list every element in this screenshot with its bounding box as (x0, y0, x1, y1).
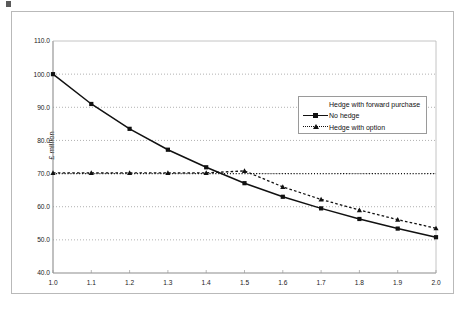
chart-legend: Hedge with forward purchase No hedge Hed… (298, 96, 427, 134)
svg-text:1.1: 1.1 (87, 279, 96, 286)
svg-text:1.0: 1.0 (48, 279, 57, 286)
series-2 (50, 168, 438, 230)
legend-label-option: Hedge with option (329, 122, 385, 133)
legend-key-none-icon (302, 99, 329, 110)
svg-text:1.9: 1.9 (393, 279, 402, 286)
legend-entry-no-hedge: No hedge (302, 110, 423, 121)
svg-text:1.7: 1.7 (317, 279, 326, 286)
legend-label-no-hedge: No hedge (329, 110, 359, 121)
svg-text:90.0: 90.0 (37, 104, 50, 111)
svg-text:1.5: 1.5 (240, 279, 249, 286)
svg-text:60.0: 60.0 (37, 203, 50, 210)
svg-text:2.0: 2.0 (431, 279, 440, 286)
svg-text:80.0: 80.0 (37, 137, 50, 144)
svg-text:1.6: 1.6 (278, 279, 287, 286)
svg-text:70.0: 70.0 (37, 170, 50, 177)
svg-text:1.8: 1.8 (355, 279, 364, 286)
svg-text:110.0: 110.0 (34, 37, 50, 44)
x-tick-labels: 1.01.11.21.31.41.51.61.71.81.92.0 (48, 279, 440, 286)
legend-key-triangle-icon (302, 122, 329, 133)
legend-entry-option: Hedge with option (302, 122, 423, 133)
svg-text:40.0: 40.0 (37, 269, 50, 276)
scan-artifact (6, 1, 11, 7)
svg-text:1.4: 1.4 (202, 279, 211, 286)
legend-entry-forward: Hedge with forward purchase (302, 99, 423, 110)
plot-area: £ million 40.050.060.070.080.090.0100.01… (12, 12, 453, 293)
chart-figure: £ million 40.050.060.070.080.090.0100.01… (0, 0, 466, 310)
svg-text:50.0: 50.0 (37, 236, 50, 243)
chart-canvas: 40.050.060.070.080.090.0100.0110.0 1.01.… (12, 12, 455, 295)
svg-text:100.0: 100.0 (33, 71, 50, 78)
axis-lines (53, 41, 436, 273)
svg-text:1.2: 1.2 (125, 279, 134, 286)
legend-label-forward: Hedge with forward purchase (329, 99, 420, 110)
chart-outer-frame: £ million 40.050.060.070.080.090.0100.01… (11, 11, 454, 294)
y-tick-labels: 40.050.060.070.080.090.0100.0110.0 (33, 37, 50, 276)
legend-key-square-icon (302, 110, 329, 121)
svg-text:1.3: 1.3 (163, 279, 172, 286)
